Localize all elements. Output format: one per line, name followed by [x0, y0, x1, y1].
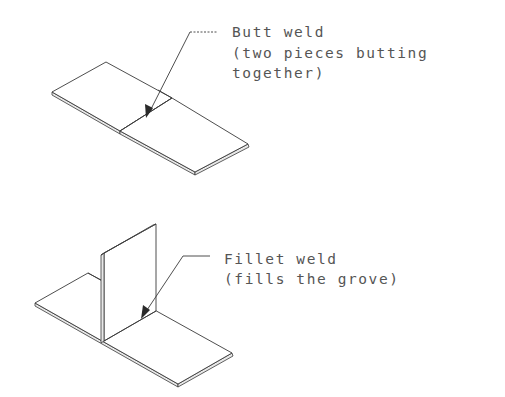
fillet-vertical-plate-left-edge [101, 253, 104, 343]
weld-types-drawing: Butt weld (two pieces butting together) … [0, 0, 505, 397]
fillet-weld-title: Fillet weld [224, 251, 338, 267]
fillet-weld-desc-1: (fills the grove) [224, 271, 400, 287]
butt-weld-figure [52, 62, 249, 175]
butt-weld-title: Butt weld [232, 24, 325, 40]
fillet-weld-figure [35, 224, 233, 387]
butt-weld-desc-2: together) [232, 65, 325, 81]
butt-weld-desc-1: (two pieces butting [232, 45, 428, 61]
